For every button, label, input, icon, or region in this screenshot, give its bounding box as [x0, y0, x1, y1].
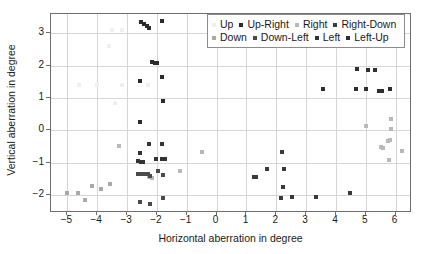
legend-entry[interactable]: Right: [295, 18, 328, 31]
legend-label: Up: [220, 18, 233, 31]
data-point: [373, 68, 377, 72]
data-point: [280, 150, 284, 154]
data-point: [160, 142, 164, 146]
data-point: [387, 158, 391, 162]
data-point: [154, 157, 158, 161]
legend-label: Left: [323, 31, 341, 44]
y-tick-label: 3: [18, 26, 44, 38]
data-point: [160, 19, 164, 23]
legend-marker-icon: [239, 23, 243, 27]
data-point: [366, 68, 370, 72]
y-tick-label: −2: [18, 188, 44, 200]
data-point: [355, 67, 359, 71]
gridline-horizontal: [51, 130, 410, 131]
data-point: [138, 151, 142, 155]
legend-label: Right: [303, 18, 328, 31]
data-point: [147, 26, 151, 30]
gridline-vertical: [67, 14, 68, 211]
legend-marker-icon: [212, 36, 216, 40]
data-point: [155, 61, 159, 65]
legend-label: Up-Right: [247, 18, 288, 31]
data-point: [90, 184, 94, 188]
legend-entry[interactable]: Down-Left: [253, 31, 309, 44]
legend-entry[interactable]: Up: [212, 18, 233, 31]
legend-entry[interactable]: Down: [212, 31, 247, 44]
data-point: [117, 144, 121, 148]
data-point: [110, 28, 114, 32]
data-point: [178, 169, 182, 173]
legend-label: Down: [220, 31, 247, 44]
data-point: [76, 191, 80, 195]
data-point: [279, 196, 283, 200]
x-tick-label: 6: [375, 214, 415, 225]
gridline-horizontal: [51, 163, 410, 164]
data-point: [380, 89, 384, 93]
x-axis-title: Horizontal aberration in degree: [50, 232, 411, 244]
legend-label: Left-Up: [354, 31, 388, 44]
data-point: [161, 196, 165, 200]
data-point: [161, 173, 165, 177]
y-tick-label: 2: [18, 59, 44, 71]
data-point: [148, 174, 152, 178]
legend-entry[interactable]: Up-Right: [239, 18, 288, 31]
legend-entry[interactable]: Right-Down: [333, 18, 396, 31]
data-point: [95, 83, 99, 87]
data-point: [381, 146, 385, 150]
data-point: [321, 87, 325, 91]
data-point: [314, 195, 318, 199]
data-point: [290, 195, 294, 199]
data-point: [348, 191, 352, 195]
gridline-vertical: [157, 14, 158, 211]
data-point: [120, 83, 124, 87]
data-point: [138, 79, 142, 83]
y-tick-label: 0: [18, 123, 44, 135]
data-point: [354, 87, 358, 91]
data-point: [99, 187, 103, 191]
data-point: [141, 160, 145, 164]
legend-marker-icon: [346, 36, 350, 40]
legend-marker-icon: [333, 23, 337, 27]
data-point: [389, 127, 393, 131]
data-point: [108, 182, 112, 186]
data-point: [364, 124, 368, 128]
legend-marker-icon: [295, 23, 299, 27]
y-tick-label: 1: [18, 91, 44, 103]
data-point: [364, 87, 368, 91]
legend-marker-icon: [212, 23, 216, 27]
gridline-horizontal: [51, 195, 410, 196]
data-point: [120, 28, 124, 32]
data-point: [107, 44, 111, 48]
data-point: [388, 87, 392, 91]
scatter-figure: Vertical aberration in degree Horizontal…: [0, 0, 421, 254]
legend-marker-icon: [253, 36, 257, 40]
data-point: [281, 185, 285, 189]
legend-marker-icon: [315, 36, 319, 40]
data-point: [265, 167, 269, 171]
data-point: [389, 117, 393, 121]
data-point: [147, 142, 151, 146]
data-point: [386, 139, 390, 143]
legend-entry[interactable]: Left: [315, 31, 341, 44]
data-point: [163, 157, 167, 161]
y-tick-label: −1: [18, 156, 44, 168]
data-point: [148, 202, 152, 206]
data-point: [200, 150, 204, 154]
data-point: [146, 83, 150, 87]
legend-row-1: UpUp-RightRightRight-Down: [212, 18, 400, 31]
data-point: [254, 175, 258, 179]
data-point: [77, 83, 81, 87]
data-point: [161, 99, 165, 103]
gridline-horizontal: [51, 98, 410, 99]
data-point: [138, 120, 142, 124]
chart-legend: UpUp-RightRightRight-Down DownDown-LeftL…: [207, 14, 405, 48]
legend-entry[interactable]: Left-Up: [346, 31, 388, 44]
gridline-vertical: [127, 14, 128, 211]
legend-row-2: DownDown-LeftLeftLeft-Up: [212, 31, 400, 44]
data-point: [282, 167, 286, 171]
legend-label: Down-Left: [261, 31, 309, 44]
data-point: [113, 101, 117, 105]
data-point: [138, 200, 142, 204]
data-point: [83, 198, 87, 202]
legend-label: Right-Down: [341, 18, 396, 31]
data-point: [160, 75, 164, 79]
